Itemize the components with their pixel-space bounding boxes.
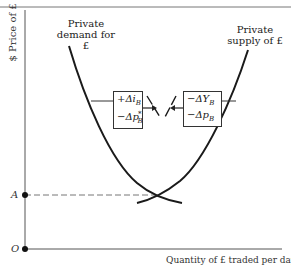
supply-label-line2: supply of £: [224, 35, 286, 46]
demand-label-line1: Private: [54, 18, 118, 29]
supply-shift-line2: −ΔpB: [187, 109, 218, 125]
diagram-frame: $ Price of £ Private demand for £ Privat…: [0, 0, 291, 269]
demand-label-line2: demand for £: [54, 29, 118, 51]
price-a-label: A: [11, 189, 18, 200]
supply-arrowhead-icon: [170, 105, 175, 111]
demand-curve-label: Private demand for £: [54, 18, 118, 51]
origin-point: [22, 246, 28, 252]
supply-shift-box: −ΔYB −ΔpB: [183, 91, 222, 127]
equilibrium-price-point: [22, 192, 28, 198]
x-axis-label: Quantity of £ traded per day: [166, 255, 291, 265]
supply-label-line1: Private: [224, 24, 286, 35]
supply-curve-label: Private supply of £: [224, 24, 286, 46]
demand-shift-line1: +ΔiB: [117, 93, 139, 109]
demand-shift-line2: −Δp*B: [117, 109, 139, 127]
origin-label: O: [11, 243, 19, 254]
demand-shift-box: +ΔiB −Δp*B: [113, 91, 143, 129]
y-axis-label: $ Price of £: [7, 10, 18, 62]
supply-shift-line1: −ΔYB: [187, 93, 218, 109]
